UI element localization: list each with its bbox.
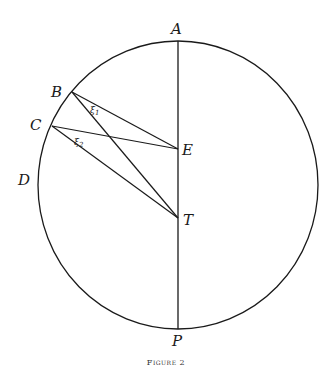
label-P: P [171, 332, 183, 350]
geometry-figure: A B C D E T P ξ1 ξ2 [0, 0, 332, 372]
figure-caption: Figure 2 [0, 358, 332, 367]
segment-BE [72, 92, 178, 149]
segment-CE [52, 126, 178, 149]
segment-BT [72, 92, 178, 218]
label-C: C [30, 116, 42, 134]
segment-CT [52, 126, 178, 218]
label-D: D [17, 171, 30, 189]
label-A: A [169, 20, 182, 38]
label-B: B [50, 83, 62, 101]
angle-xi2: ξ2 [74, 137, 84, 149]
label-E: E [181, 141, 193, 159]
label-T: T [183, 211, 194, 229]
